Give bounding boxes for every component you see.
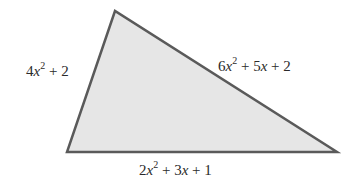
triangle: [67, 11, 337, 152]
triangle-figure: [0, 0, 343, 185]
side-label-left: 4x2 + 2: [26, 64, 69, 79]
side-label-bottom: 2x2 + 3x + 1: [139, 163, 212, 178]
side-label-right: 6x2 + 5x + 2: [218, 59, 291, 74]
